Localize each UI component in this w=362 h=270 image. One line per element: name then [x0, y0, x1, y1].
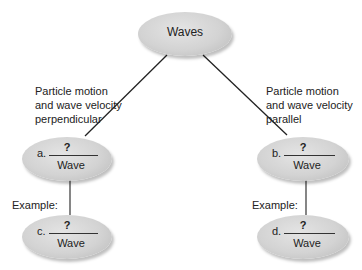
- blank-question: ?: [257, 219, 349, 231]
- example-label-left: Example:: [12, 198, 58, 212]
- blank-line: [284, 155, 335, 156]
- blank-line: [49, 155, 98, 156]
- node-c: c. ? Wave: [22, 215, 112, 259]
- blank-question: ?: [22, 219, 112, 231]
- annotation-parallel: Particle motion and wave velocity parall…: [266, 84, 353, 126]
- blank-line: [284, 233, 335, 234]
- root-node-waves: Waves: [138, 12, 232, 56]
- blank-question: ?: [22, 141, 112, 153]
- node-suffix: Wave: [257, 237, 349, 249]
- blank-line: [49, 233, 98, 234]
- annotation-perpendicular: Particle motion and wave velocity perpen…: [35, 84, 122, 126]
- root-label: Waves: [138, 25, 232, 39]
- node-d: d. ? Wave: [257, 215, 349, 259]
- node-suffix: Wave: [22, 237, 112, 249]
- node-a: a. ? Wave: [22, 137, 112, 181]
- node-suffix: Wave: [22, 159, 112, 171]
- node-suffix: Wave: [257, 159, 349, 171]
- node-b: b. ? Wave: [257, 137, 349, 181]
- example-label-right: Example:: [252, 198, 298, 212]
- blank-question: ?: [257, 141, 349, 153]
